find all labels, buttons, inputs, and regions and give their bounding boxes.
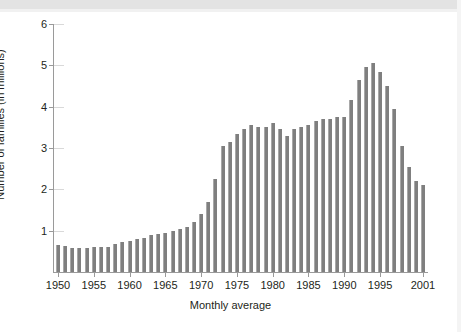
y-tick-stub <box>54 107 64 108</box>
bar <box>113 244 117 272</box>
bar <box>306 125 310 272</box>
x-tick-mark <box>130 273 131 277</box>
x-tick-mark <box>273 273 274 277</box>
bar <box>70 248 74 272</box>
bar <box>321 119 325 272</box>
x-tick-label: 1995 <box>368 279 392 291</box>
bar <box>56 245 60 272</box>
bar <box>142 238 146 272</box>
bar <box>228 142 232 272</box>
bar <box>85 248 89 272</box>
page-top-band <box>0 0 461 9</box>
bar <box>106 247 110 272</box>
bar <box>278 129 282 272</box>
x-tick-mark <box>165 273 166 277</box>
x-tick-mark <box>423 273 424 277</box>
bar <box>400 146 404 272</box>
bar <box>392 109 396 272</box>
bar <box>364 67 368 272</box>
bar <box>342 117 346 272</box>
bar <box>292 129 296 272</box>
page-top-band-secondary <box>0 9 461 12</box>
y-tick-stub <box>54 231 64 232</box>
x-axis-line <box>53 272 428 273</box>
x-tick-label: 2001 <box>411 279 435 291</box>
bar <box>92 247 96 272</box>
chart-figure: 123456 195019551960196519701975198019851… <box>0 0 461 332</box>
bar <box>77 248 81 272</box>
x-tick-mark <box>58 273 59 277</box>
x-tick-label: 1965 <box>153 279 177 291</box>
bar <box>414 181 418 272</box>
bar <box>192 222 196 272</box>
y-tick-label: 2 <box>41 184 47 195</box>
x-tick-label: 1970 <box>189 279 213 291</box>
y-axis-title: Number of families (in millions) <box>0 0 8 249</box>
bar <box>285 136 289 272</box>
bar <box>235 134 239 272</box>
y-tick-label: 5 <box>41 60 47 71</box>
bar <box>99 247 103 272</box>
bar <box>349 100 353 272</box>
y-tick-label: 1 <box>41 225 47 236</box>
x-tick-label: 1975 <box>225 279 249 291</box>
x-tick-mark <box>380 273 381 277</box>
y-tick-stub <box>54 65 64 66</box>
y-tick-label: 4 <box>41 101 47 112</box>
bar <box>328 119 332 272</box>
bar <box>242 129 246 272</box>
x-tick-mark <box>201 273 202 277</box>
bar <box>256 127 260 272</box>
y-tick-stub <box>54 24 64 25</box>
x-tick-label: 1980 <box>260 279 284 291</box>
bar <box>128 241 132 272</box>
bar <box>213 179 217 272</box>
bar <box>206 202 210 272</box>
bar <box>185 227 189 272</box>
bar <box>378 72 382 272</box>
bar <box>178 229 182 272</box>
bar <box>357 80 361 272</box>
bar <box>264 127 268 272</box>
x-tick-label: 1985 <box>296 279 320 291</box>
bar <box>385 86 389 272</box>
x-tick-label: 1960 <box>117 279 141 291</box>
y-tick-label: 6 <box>41 19 47 30</box>
bar <box>149 235 153 272</box>
bar <box>407 167 411 272</box>
bar <box>371 63 375 272</box>
bar <box>335 117 339 272</box>
bar <box>156 234 160 272</box>
bar <box>199 214 203 272</box>
bar <box>249 125 253 272</box>
x-tick-mark <box>237 273 238 277</box>
y-tick-stub <box>54 189 64 190</box>
bar <box>120 242 124 272</box>
bar <box>271 123 275 272</box>
x-tick-label: 1990 <box>332 279 356 291</box>
page-right-band <box>457 0 461 332</box>
bar <box>314 121 318 272</box>
x-tick-mark <box>308 273 309 277</box>
plot-area: 123456 195019551960196519701975198019851… <box>53 24 428 273</box>
x-tick-label: 1950 <box>46 279 70 291</box>
bar <box>163 233 167 272</box>
x-axis-title: Monthly average <box>0 299 461 311</box>
y-tick-label: 3 <box>41 143 47 154</box>
bar <box>421 185 425 272</box>
y-tick-stub <box>54 148 64 149</box>
x-tick-label: 1955 <box>82 279 106 291</box>
bar <box>63 246 67 272</box>
bar <box>135 239 139 272</box>
x-tick-mark <box>94 273 95 277</box>
bar <box>221 146 225 272</box>
bar <box>299 127 303 272</box>
bar <box>171 231 175 272</box>
x-tick-mark <box>344 273 345 277</box>
